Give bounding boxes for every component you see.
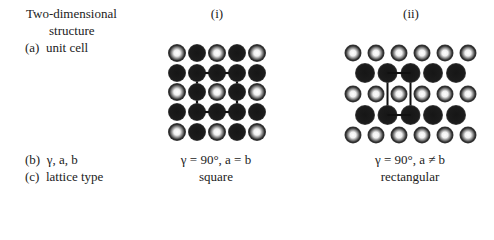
rectangular-lattice [345, 45, 477, 144]
row-label-c: (c) lattice type [25, 170, 103, 183]
rectangular-type: rectangular [381, 170, 439, 183]
rectangular-params: γ = 90°, a ≠ b [375, 153, 445, 166]
row-label-b: (b) γ, a, b [25, 153, 78, 166]
square-type: square [199, 170, 233, 183]
square-lattice [168, 44, 266, 141]
square-params: γ = 90°, a = b [181, 153, 251, 166]
